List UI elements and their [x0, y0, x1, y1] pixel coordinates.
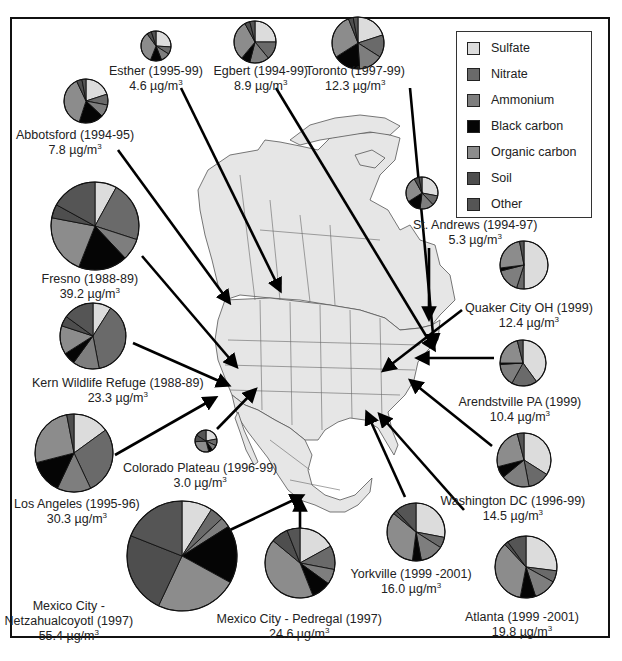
site-name: Netzahualcoyotl (1997) — [5, 614, 134, 629]
legend-item-black-carbon: Black carbon — [467, 118, 563, 134]
site-concentration: 19.8 µg/m3 — [465, 625, 579, 640]
site-label: Abbotsford (1994-95)7.8 µg/m3 — [16, 128, 134, 158]
site-name: Mexico City - Pedregal (1997) — [217, 612, 382, 627]
site-name: St. Andrews (1994-97) — [413, 218, 537, 233]
pie-chart — [387, 503, 445, 561]
black-carbon-swatch-icon — [467, 120, 480, 133]
pie-chart — [51, 182, 139, 270]
pie-chart — [60, 303, 126, 369]
legend-label: Other — [491, 197, 522, 211]
legend-label: Soil — [491, 171, 512, 185]
legend-label: Ammonium — [491, 93, 554, 107]
site-name: Los Angeles (1995-96) — [14, 497, 140, 512]
site-label: Colorado Plateau (1996-99)3.0 µg/m3 — [123, 461, 277, 491]
site-name: Yorkville (1999 -2001) — [351, 567, 472, 582]
north-america-map — [198, 115, 455, 512]
site-label: Washington DC (1996-99)14.5 µg/m3 — [441, 494, 586, 524]
site-concentration: 24.6 µg/m3 — [217, 627, 382, 642]
soil-swatch-icon — [467, 172, 480, 185]
site-label: Egbert (1994-99)8.9 µg/m3 — [214, 64, 309, 94]
site-label: St. Andrews (1994-97)5.3 µg/m3 — [413, 218, 537, 248]
pie-slice-sulfate — [524, 241, 548, 289]
legend-label: Black carbon — [491, 119, 563, 133]
other-swatch-icon — [467, 198, 480, 211]
site-name: Esther (1995-99) — [109, 64, 203, 79]
legend-label: Sulfate — [491, 41, 530, 55]
site-label: Kern Wildlife Refuge (1988-89)23.3 µg/m3 — [32, 376, 204, 406]
pie-chart — [35, 414, 113, 492]
ammonium-swatch-icon — [467, 94, 480, 107]
legend-item-other: Other — [467, 196, 522, 212]
legend-item-sulfate: Sulfate — [467, 40, 530, 56]
pie-chart — [500, 241, 548, 289]
pie-chart — [500, 340, 546, 386]
site-label: Mexico City - Pedregal (1997)24.6 µg/m3 — [217, 612, 382, 642]
site-name: Colorado Plateau (1996-99) — [123, 461, 277, 476]
site-name: Atlanta (1999 -2001) — [465, 610, 579, 625]
site-name: Toronto (1997-99) — [306, 64, 405, 79]
legend-label: Nitrate — [491, 67, 528, 81]
site-concentration: 14.5 µg/m3 — [441, 509, 586, 524]
legend-item-ammonium: Ammonium — [467, 92, 554, 108]
site-name: Abbotsford (1994-95) — [16, 128, 134, 143]
site-label: Mexico City -Netzahualcoyotl (1997)55.4 … — [5, 599, 134, 644]
site-label: Toronto (1997-99)12.3 µg/m3 — [306, 64, 405, 94]
organic-carbon-swatch-icon — [467, 146, 480, 159]
site-concentration: 16.0 µg/m3 — [351, 582, 472, 597]
site-name: Mexico City - — [5, 599, 134, 614]
site-concentration: 4.6 µg/m3 — [109, 79, 203, 94]
site-concentration: 3.0 µg/m3 — [123, 476, 277, 491]
site-name: Egbert (1994-99) — [214, 64, 309, 79]
pie-chart — [234, 21, 276, 63]
legend-item-organic-carbon: Organic carbon — [467, 144, 576, 160]
pie-chart — [406, 177, 438, 209]
pie-chart — [497, 433, 551, 487]
arrow-8 — [230, 496, 302, 530]
site-label: Atlanta (1999 -2001)19.8 µg/m3 — [465, 610, 579, 640]
pie-chart — [195, 430, 217, 452]
site-name: Washington DC (1996-99) — [441, 494, 586, 509]
site-label: Esther (1995-99)4.6 µg/m3 — [109, 64, 203, 94]
legend: Sulfate Nitrate Ammonium Black carbon Or… — [456, 31, 592, 218]
pie-chart — [265, 528, 335, 598]
site-concentration: 10.4 µg/m3 — [459, 410, 582, 425]
site-concentration: 5.3 µg/m3 — [413, 233, 537, 248]
pie-chart — [141, 31, 171, 61]
nitrate-swatch-icon — [467, 68, 480, 81]
site-concentration: 7.8 µg/m3 — [16, 143, 134, 158]
site-name: Quaker City OH (1999) — [465, 301, 593, 316]
pie-slice-sulfate — [526, 536, 557, 571]
pie-chart — [127, 501, 237, 611]
pie-chart — [332, 17, 384, 69]
legend-label: Organic carbon — [491, 145, 576, 159]
site-label: Yorkville (1999 -2001)16.0 µg/m3 — [351, 567, 472, 597]
pie-chart — [495, 536, 557, 598]
site-concentration: 55.4 µg/m3 — [5, 629, 134, 644]
legend-item-soil: Soil — [467, 170, 512, 186]
site-concentration: 23.3 µg/m3 — [32, 391, 204, 406]
site-label: Quaker City OH (1999)12.4 µg/m3 — [465, 301, 593, 331]
site-concentration: 30.3 µg/m3 — [14, 512, 140, 527]
site-label: Fresno (1988-89)39.2 µg/m3 — [42, 272, 139, 302]
site-name: Kern Wildlife Refuge (1988-89) — [32, 376, 204, 391]
site-name: Fresno (1988-89) — [42, 272, 139, 287]
pie-chart — [64, 79, 108, 123]
site-concentration: 12.4 µg/m3 — [465, 316, 593, 331]
legend-item-nitrate: Nitrate — [467, 66, 528, 82]
site-concentration: 39.2 µg/m3 — [42, 287, 139, 302]
site-concentration: 12.3 µg/m3 — [306, 79, 405, 94]
sulfate-swatch-icon — [467, 42, 480, 55]
site-name: Arendstville PA (1999) — [459, 395, 582, 410]
site-label: Arendstville PA (1999)10.4 µg/m3 — [459, 395, 582, 425]
site-label: Los Angeles (1995-96)30.3 µg/m3 — [14, 497, 140, 527]
site-concentration: 8.9 µg/m3 — [214, 79, 309, 94]
